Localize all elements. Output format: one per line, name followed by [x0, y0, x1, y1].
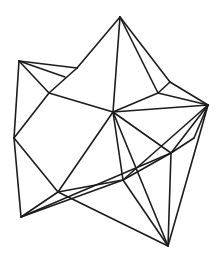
edge-P_right_bend--C_right_apex [170, 82, 208, 105]
edge-J_right_inner--C_right_apex [158, 93, 208, 105]
edge-K_lower_right_inner--N_right_sliver [171, 138, 194, 153]
edge-H_upper_left_inner--D_left_mid [14, 93, 49, 138]
edge-J_right_inner--P_right_bend [158, 82, 170, 93]
edge-L_bottom_inner--K_lower_right_inner [123, 153, 171, 180]
edge-D_left_mid--M_lower_left_inner [14, 138, 58, 192]
edge-H_upper_left_inner--G_center [49, 93, 113, 112]
edge-I_topleft_bend--H_upper_left_inner [49, 68, 77, 93]
edge-B_upper_left_apex--D_left_mid [14, 61, 19, 138]
edge-A_top_apex--I_topleft_bend [77, 17, 120, 68]
edge-F_bottom_apex--C_right_apex [168, 105, 208, 246]
polyhedron-canvas [0, 0, 222, 257]
edge-M_lower_left_inner--L_bottom_inner [58, 180, 123, 192]
edge-K_lower_right_inner--F_bottom_apex [168, 153, 171, 246]
wireframe-edges [14, 17, 208, 246]
edge-M_lower_left_inner--G_center [58, 112, 113, 192]
edge-K_lower_right_inner--C_right_apex [171, 105, 208, 153]
edge-A_top_apex--P_right_bend [120, 17, 170, 82]
star-polyhedron-wireframe [0, 0, 222, 257]
edge-A_top_apex--G_center [113, 17, 120, 112]
edge-E_lower_left_apex--M_lower_left_inner [21, 192, 58, 217]
edge-D_left_mid--E_lower_left_apex [14, 138, 21, 217]
edge-A_top_apex--J_right_inner [120, 17, 158, 93]
edge-M_lower_left_inner--F_bottom_apex [58, 192, 168, 246]
